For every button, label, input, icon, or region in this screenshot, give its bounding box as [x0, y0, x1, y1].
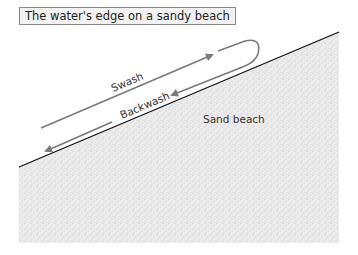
sand-beach-label: Sand beach	[203, 113, 265, 125]
runup-loop	[218, 40, 259, 66]
beach-diagram: Swash Backwash Sand beach	[0, 0, 358, 255]
swash-label: Swash	[109, 70, 145, 94]
sand-region	[19, 32, 339, 243]
